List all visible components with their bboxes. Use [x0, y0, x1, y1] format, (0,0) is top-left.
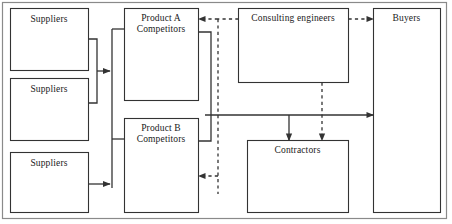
box-product-a-competitors: [125, 9, 199, 101]
box-contractors: [248, 141, 349, 213]
box-product-b-competitors: [125, 119, 199, 213]
box-supplier-2: [11, 79, 89, 141]
box-consulting-engineers: [239, 9, 349, 83]
diagram-canvas: [0, 0, 452, 224]
node-boxes: [11, 9, 441, 213]
edge-suppliers-1-2-bus: [89, 39, 98, 103]
edge-product-b-outlet: [199, 115, 212, 141]
edge-product-a-outlet: [199, 32, 212, 115]
supply-chain-diagram: Suppliers Suppliers Suppliers Product A …: [0, 0, 452, 224]
box-supplier-3: [11, 153, 89, 213]
box-buyers: [374, 9, 441, 213]
box-supplier-1: [11, 9, 89, 71]
